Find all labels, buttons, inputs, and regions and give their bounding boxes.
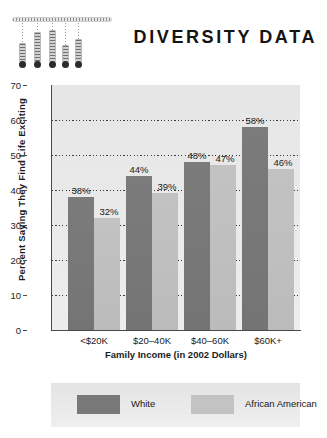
bar-african-american[interactable] [94, 218, 120, 330]
logo-tube-2 [34, 32, 41, 62]
logo-stem-5 [78, 23, 79, 39]
bar-chart: Percent Saying They Find Life Exciting 7… [0, 72, 327, 367]
logo-bulb-4 [62, 61, 69, 68]
y-axis-tick: 70 [0, 80, 21, 91]
logo-bulb-3 [49, 61, 56, 68]
y-axis-tick: 60 [0, 115, 21, 126]
y-axis-line [51, 85, 52, 330]
chart-header: DIVERSITY DATA [0, 0, 327, 72]
legend-swatch-african-american [191, 395, 234, 414]
x-axis-tick: $20–40K [122, 335, 182, 346]
chart-legend: White African American [51, 383, 300, 427]
logo-tube-1 [19, 43, 26, 62]
bar-value-label: 32% [90, 206, 128, 217]
logo-stem-1 [22, 23, 23, 43]
bar-african-american[interactable] [210, 165, 236, 330]
logo-stem-3 [52, 23, 53, 30]
bar-group: 44% 39% [126, 85, 178, 330]
x-axis-line [51, 330, 301, 331]
legend-item-white[interactable]: White [77, 395, 177, 414]
logo-bulb-2 [34, 61, 41, 68]
logo-bulb-5 [75, 61, 82, 68]
logo-stem-2 [37, 23, 38, 32]
logo-stem-4 [65, 23, 66, 45]
x-axis-title: Family Income (in 2002 Dollars) [52, 349, 300, 360]
bar-group: 38% 32% [68, 85, 120, 330]
logo-tube-3 [49, 30, 56, 62]
bar-value-label: 58% [236, 115, 274, 126]
y-axis-tick: 40 [0, 185, 21, 196]
bar-group: 48% 47% [184, 85, 236, 330]
bar-value-label: 39% [148, 181, 186, 192]
plot-area: 38% 32% 44% 39% 48% 47% 58% 46% <$20K $2… [52, 85, 300, 330]
legend-swatch-white [77, 395, 120, 414]
y-axis-tick: 20 [0, 255, 21, 266]
legend-label: African American [245, 398, 317, 409]
bar-white[interactable] [184, 162, 210, 330]
logo-tube-4 [62, 45, 69, 62]
bar-group: 58% 46% [242, 85, 294, 330]
logo-tube-5 [75, 39, 82, 62]
x-axis-tick: $40–60K [180, 335, 240, 346]
y-axis-tick: 10 [0, 290, 21, 301]
x-axis-tick: $60K+ [238, 335, 298, 346]
bar-value-label: 44% [120, 164, 158, 175]
bar-value-label: 38% [62, 185, 100, 196]
x-axis-tick: <$20K [64, 335, 124, 346]
bar-value-label: 46% [264, 157, 302, 168]
logo-rail [12, 17, 112, 22]
y-axis-tick: 0 [0, 325, 21, 336]
legend-item-african-american[interactable]: African American [191, 395, 327, 414]
bar-value-label: 47% [206, 153, 244, 164]
legend-label: White [131, 398, 155, 409]
bar-african-american[interactable] [268, 169, 294, 330]
bar-african-american[interactable] [152, 193, 178, 330]
diversity-data-logo-icon [12, 17, 112, 69]
y-axis-tick: 30 [0, 220, 21, 231]
y-axis-tick: 50 [0, 150, 21, 161]
bar-white[interactable] [126, 176, 152, 330]
page-title: DIVERSITY DATA [131, 26, 317, 48]
